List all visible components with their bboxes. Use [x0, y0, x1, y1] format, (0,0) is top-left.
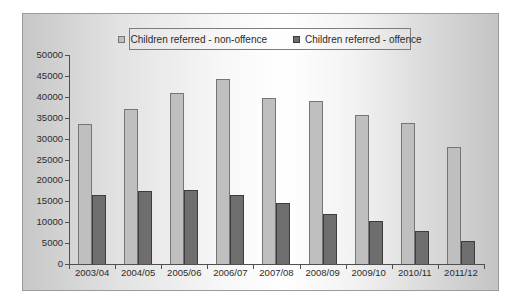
bar-offence-2005-06: [184, 190, 198, 264]
bar-non-offence-2003-04: [78, 124, 92, 264]
y-tick-label: 40000: [25, 92, 63, 102]
category-group-2006-07: [207, 55, 253, 264]
bar-offence-2011-12: [461, 241, 475, 264]
y-tick-label: 35000: [25, 113, 63, 123]
legend-label-offence: Children referred - offence: [305, 34, 422, 45]
bar-non-offence-2006-07: [216, 79, 230, 264]
x-category-label: 2005/06: [161, 267, 207, 278]
category-group-2009-10: [346, 55, 392, 264]
y-tick-label: 15000: [25, 196, 63, 206]
legend-entry-non-offence: Children referred - non-offence: [118, 34, 267, 45]
legend-entry-offence: Children referred - offence: [293, 34, 422, 45]
x-category-label: 2011/12: [438, 267, 484, 278]
bar-non-offence-2010-11: [401, 123, 415, 264]
x-axis-labels: 2003/042004/052005/062006/072007/082008/…: [69, 267, 484, 278]
category-group-2011-12: [438, 55, 484, 264]
category-group-2005-06: [161, 55, 207, 264]
y-tick-label: 45000: [25, 71, 63, 81]
bar-offence-2010-11: [415, 231, 429, 264]
bar-non-offence-2011-12: [447, 147, 461, 264]
category-group-2003-04: [69, 55, 115, 264]
bar-offence-2009-10: [369, 221, 383, 264]
bar-offence-2003-04: [92, 195, 106, 264]
category-group-2008-09: [300, 55, 346, 264]
bar-offence-2006-07: [230, 195, 244, 264]
x-axis-tick: [484, 265, 485, 269]
chart-container: Children referred - non-offence Children…: [22, 13, 499, 291]
bar-offence-2007-08: [276, 203, 290, 264]
x-category-label: 2007/08: [253, 267, 299, 278]
bar-offence-2008-09: [323, 214, 337, 264]
legend-label-non-offence: Children referred - non-offence: [130, 34, 267, 45]
y-tick-label: 10000: [25, 217, 63, 227]
bar-non-offence-2008-09: [309, 101, 323, 264]
x-category-label: 2008/09: [300, 267, 346, 278]
y-tick-label: 25000: [25, 155, 63, 165]
y-tick-label: 0: [25, 259, 63, 269]
y-tick-label: 5000: [25, 238, 63, 248]
bar-non-offence-2009-10: [355, 115, 369, 264]
x-category-label: 2009/10: [346, 267, 392, 278]
y-tick-label: 20000: [25, 175, 63, 185]
x-category-label: 2003/04: [69, 267, 115, 278]
bar-offence-2004-05: [138, 191, 152, 264]
y-tick-label: 50000: [25, 50, 63, 60]
bar-non-offence-2005-06: [170, 93, 184, 264]
y-tick-label: 30000: [25, 134, 63, 144]
legend-marker-non-offence-icon: [118, 36, 125, 43]
x-category-label: 2004/05: [115, 267, 161, 278]
x-category-label: 2006/07: [207, 267, 253, 278]
bar-non-offence-2004-05: [124, 109, 138, 264]
category-group-2010-11: [392, 55, 438, 264]
category-group-2004-05: [115, 55, 161, 264]
bar-non-offence-2007-08: [262, 98, 276, 264]
legend-marker-offence-icon: [293, 36, 300, 43]
category-group-2007-08: [253, 55, 299, 264]
legend: Children referred - non-offence Children…: [129, 28, 411, 50]
bars-row: [69, 55, 484, 264]
x-category-label: 2010/11: [392, 267, 438, 278]
